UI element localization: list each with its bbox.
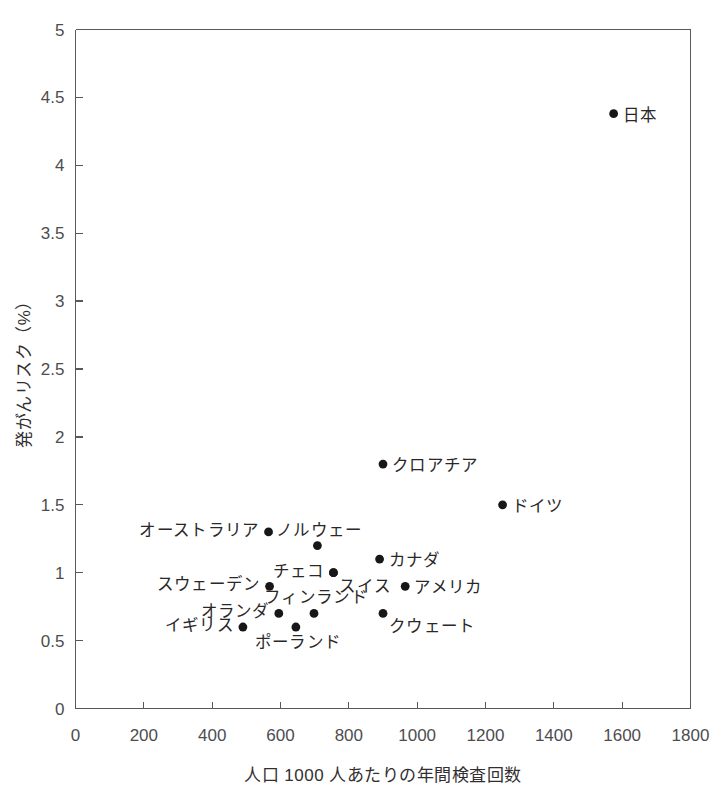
x-tick-label-800: 800 [335,726,363,745]
data-point-label: カナダ [389,551,441,569]
axes [76,30,691,709]
scatter-chart-figure: 00.511.522.533.544.550200400600800100012… [0,0,725,802]
y-tick-label-4: 4 [55,156,64,175]
data-point-label: フィンランド [264,588,368,606]
x-tick-label-1400: 1400 [535,726,573,745]
axis-frame [76,30,691,709]
data-point-label: オーストラリア [139,521,259,539]
data-point-marker [375,555,384,564]
data-point-label: 日本 [623,106,658,124]
y-tick-label-3: 3 [55,292,64,311]
data-point-label: イギリス [165,616,234,634]
data-point-label: ノルウェー [276,521,363,539]
y-tick-label-1.5: 1.5 [41,496,65,515]
data-point-label: スウェーデン [157,574,261,593]
x-tick-label-400: 400 [198,726,226,745]
axis-tick-labels: 00.511.522.533.544.550200400600800100012… [41,21,710,745]
data-point-marker [291,623,300,632]
data-point-marker [401,582,410,591]
data-point-marker [264,528,273,537]
data-point-label: ドイツ [512,497,564,515]
data-point-label: クロアチア [392,456,479,474]
y-tick-label-3.5: 3.5 [41,224,65,243]
data-point-marker [239,623,248,632]
axis-ticks [76,97,623,708]
x-tick-label-0: 0 [71,726,80,745]
y-tick-label-0: 0 [55,700,64,719]
data-point-marker [313,541,322,550]
data-point-marker [274,609,283,618]
x-tick-label-1800: 1800 [672,726,710,745]
y-tick-label-1: 1 [55,564,64,583]
x-tick-label-200: 200 [130,726,158,745]
data-point-marker [379,460,388,469]
data-point-labels: 日本クロアチアドイツオーストラリアノルウェーカナダチェコスイススウェーデンアメリ… [139,106,657,651]
data-point-marker [329,568,338,577]
plot-area: 00.511.522.533.544.550200400600800100012… [0,0,725,802]
x-tick-label-600: 600 [266,726,294,745]
x-tick-label-1200: 1200 [467,726,505,745]
data-point-label: クウェート [389,617,476,635]
y-tick-label-4.5: 4.5 [41,88,65,107]
y-axis-title: 発がんリスク（%） [15,292,34,448]
data-point-marker [609,109,618,118]
data-point-label: アメリカ [414,578,482,596]
x-axis-title: 人口 1000 人あたりの年間検査回数 [244,766,522,785]
data-point-label: ポーランド [255,633,342,651]
y-tick-label-2.5: 2.5 [41,360,65,379]
x-tick-label-1000: 1000 [398,726,436,745]
data-point-label: チェコ [273,562,325,580]
data-point-marker [379,609,388,618]
y-tick-label-2: 2 [55,428,64,447]
data-point-marker [498,500,507,509]
x-tick-label-1600: 1600 [603,726,641,745]
y-tick-label-5: 5 [55,21,64,40]
y-tick-label-0.5: 0.5 [41,632,65,651]
data-point-marker [310,609,319,618]
